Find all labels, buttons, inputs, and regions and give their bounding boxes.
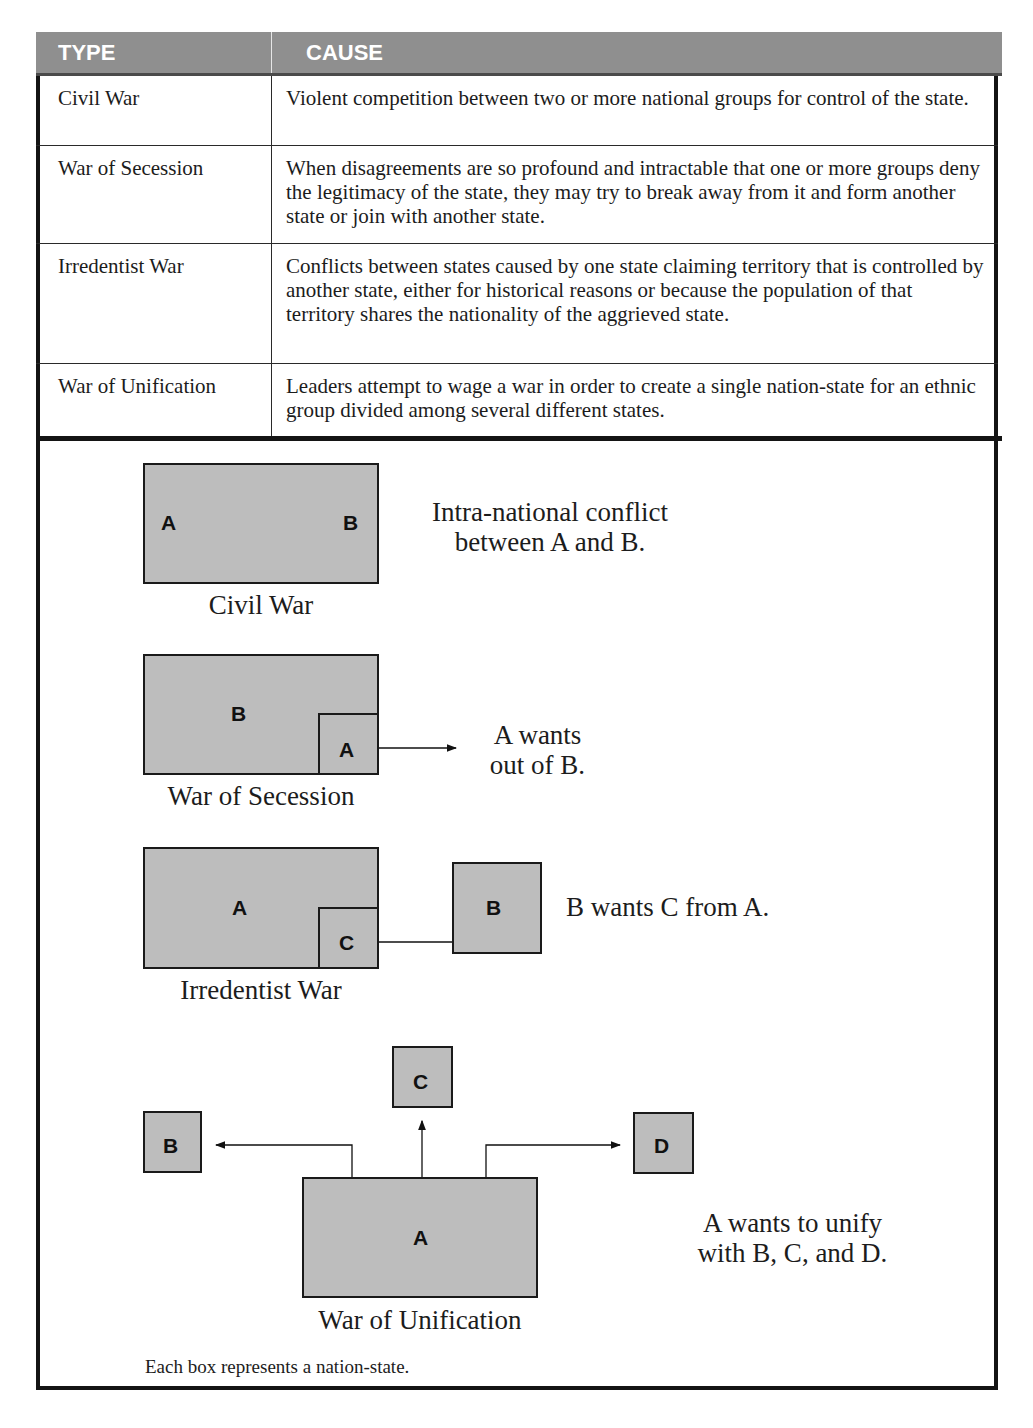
- desc-line: A wants: [450, 720, 625, 750]
- diagram-description: A wants to unify with B, C, and D.: [670, 1208, 915, 1268]
- footnote: Each box represents a nation-state.: [145, 1356, 409, 1378]
- diagram-description: A wants out of B.: [450, 720, 625, 780]
- box-label-b: B: [163, 1134, 178, 1158]
- desc-line: A wants to unify: [670, 1208, 915, 1238]
- diagram-caption: War of Secession: [143, 781, 379, 812]
- box-label-a: A: [232, 896, 247, 920]
- box-label-b: B: [231, 702, 246, 726]
- desc-line: out of B.: [450, 750, 625, 780]
- box-label-d: D: [654, 1134, 669, 1158]
- desc-line: with B, C, and D.: [670, 1238, 915, 1268]
- box-label-a: A: [161, 511, 176, 535]
- diagram-description: B wants C from A.: [566, 892, 769, 922]
- box-label-b: B: [343, 511, 358, 535]
- diagram-caption: Civil War: [143, 590, 379, 621]
- diagram-caption: Irredentist War: [143, 975, 379, 1006]
- box-label-c: C: [339, 931, 354, 955]
- desc-line: between A and B.: [400, 527, 700, 557]
- box-label-c: C: [413, 1070, 428, 1094]
- diagram-description: Intra-national conflict between A and B.: [400, 497, 700, 557]
- box-label-b: B: [486, 896, 501, 920]
- desc-line: Intra-national conflict: [400, 497, 700, 527]
- box-label-a: A: [339, 738, 354, 762]
- box-label-a: A: [413, 1226, 428, 1250]
- diagram-caption: War of Unification: [282, 1305, 558, 1336]
